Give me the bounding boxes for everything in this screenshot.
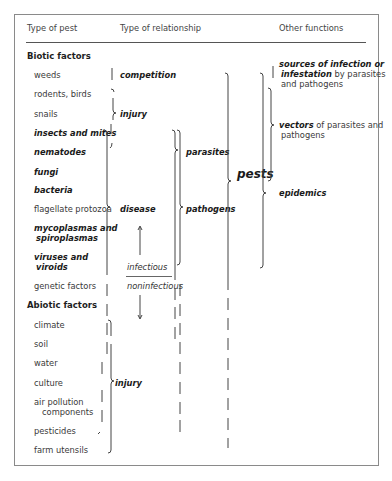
insects-nematodes-marks — [110, 124, 112, 148]
epidemics-brace — [260, 73, 266, 268]
parasites-brace — [172, 130, 178, 280]
vectors-brace — [268, 88, 274, 181]
pests-brace — [225, 73, 231, 290]
injury-abiotic-brace — [108, 320, 114, 453]
injury-biotic-brace — [111, 89, 116, 120]
disease-brace — [104, 130, 110, 275]
bracket-lines — [0, 0, 392, 481]
